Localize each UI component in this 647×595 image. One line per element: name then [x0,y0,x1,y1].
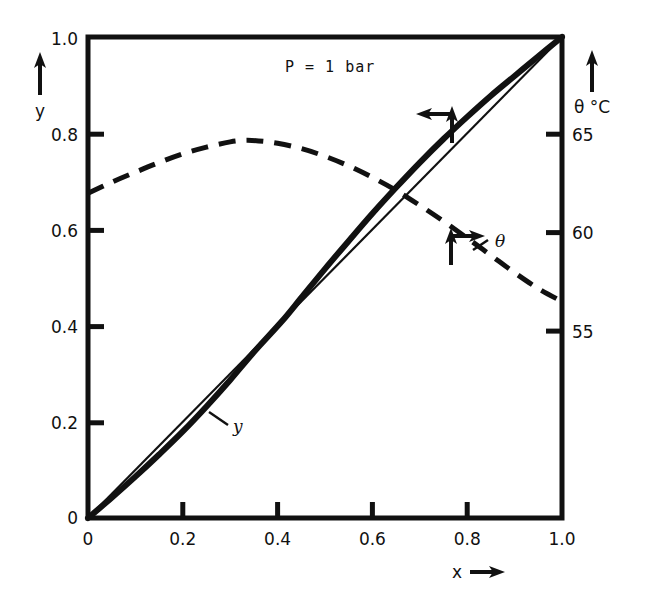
bottom-ticklabel-0.8: 0.8 [454,529,481,549]
y-curve-pointer-callout [416,106,458,143]
theta-axis-up-arrow-icon [586,50,598,92]
chart-canvas: 0 0.2 0.4 0.6 0.8 1.0 y 65 60 55 [0,0,647,595]
right-ticklabel-60: 60 [572,223,594,243]
left-ticklabel-0.2: 0.2 [51,413,78,433]
x-axis-title-group: x [452,562,505,582]
vle-chart-figure: 0 0.2 0.4 0.6 0.8 1.0 y 65 60 55 [0,0,647,595]
right-axis-title-group: θ °C [574,50,610,117]
y-callout-label: y [232,416,243,436]
bottom-ticklabel-0.6: 0.6 [359,529,386,549]
bottom-ticklabel-0.2: 0.2 [169,529,196,549]
y-axis-label: y [35,101,45,121]
left-ticklabel-0.6: 0.6 [51,221,78,241]
left-ticklabel-0.8: 0.8 [51,125,78,145]
right-ticklabel-65: 65 [572,125,594,145]
theta-callout-label: θ [495,231,505,251]
y-curve-leader-callout: y [209,412,243,436]
bottom-ticklabel-0.4: 0.4 [264,529,291,549]
x-axis-right-arrow-icon [470,566,505,578]
pressure-annotation: P = 1 bar [285,58,375,76]
x-axis-label: x [452,562,462,582]
left-ticklabel-0: 0 [67,508,78,528]
bottom-ticklabel-0: 0 [83,529,94,549]
left-ticklabel-0.4: 0.4 [51,317,78,337]
theta-axis-label: θ °C [574,97,610,117]
right-axis-ticklabels: 65 60 55 [572,125,594,342]
right-ticklabel-55: 55 [572,322,594,342]
left-ticklabel-1.0: 1.0 [51,29,78,49]
bottom-ticklabel-1.0: 1.0 [548,529,575,549]
bottom-axis-ticklabels: 0 0.2 0.4 0.6 0.8 1.0 [83,529,576,549]
left-axis-title-group: y [34,52,46,121]
left-axis-ticklabels: 0 0.2 0.4 0.6 0.8 1.0 [51,29,78,528]
data-curves [88,37,562,518]
y-axis-up-arrow-icon [34,52,46,95]
diagonal-reference-line [88,37,562,518]
